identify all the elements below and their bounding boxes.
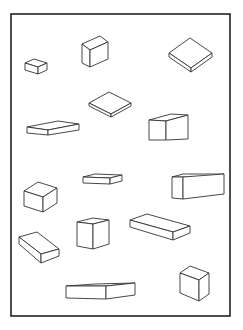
flat-diamond-box-upper-mid [89, 92, 131, 117]
long-slab-left [27, 121, 79, 135]
tilted-slab-lower-left [19, 232, 59, 263]
figure-canvas [0, 0, 243, 330]
cube-left-middle [24, 182, 57, 212]
box-front-face [77, 222, 93, 249]
box-front-face [83, 177, 110, 184]
rect-box-right-upper [149, 114, 188, 140]
thin-slab-center [83, 174, 122, 184]
box-side-face [93, 220, 109, 249]
tall-box-top-center [82, 36, 108, 67]
box-front-face [149, 120, 166, 140]
long-slab-bottom [66, 283, 135, 299]
flat-diamond-box-top-right [169, 38, 212, 72]
boxes-diagram [0, 0, 243, 330]
box-top-face [89, 92, 131, 114]
cube-bottom-right [180, 266, 209, 301]
box-side-face [183, 174, 224, 199]
box-front-face [66, 286, 106, 299]
box-top-face [169, 38, 212, 68]
box-front-face [172, 177, 183, 199]
tilted-slab-lower-right [130, 214, 190, 240]
small-box-top-left [25, 59, 47, 74]
box-side-face [106, 283, 135, 299]
boxes-group [19, 36, 224, 301]
long-box-right-middle [172, 174, 224, 199]
cube-lower-center [77, 218, 109, 249]
